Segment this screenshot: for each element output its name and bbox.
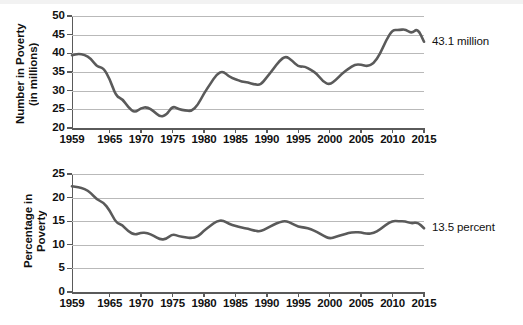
x-axis-tick-label: 1959 <box>55 133 89 145</box>
x-axis-tick-label: 1990 <box>250 297 284 309</box>
x-axis-tick-label: 1975 <box>156 297 190 309</box>
y-axis-label-top-line2: (in millions) <box>27 42 39 105</box>
y-axis-tick-label: 0 <box>45 286 65 297</box>
series-end-annotation: 13.5 percent <box>432 221 495 233</box>
x-axis-tick-label: 2010 <box>376 297 410 309</box>
x-axis-tick-label: 1965 <box>93 133 127 145</box>
x-axis-tick-label: 2015 <box>407 297 441 309</box>
y-axis-tick-label: 25 <box>45 168 65 179</box>
y-axis-tick-label: 30 <box>45 85 65 96</box>
x-axis-tick-label: 1970 <box>124 297 158 309</box>
y-axis-tick-label: 15 <box>45 215 65 226</box>
y-axis-label-bottom: Percentage in Poverty <box>22 172 38 290</box>
plot-area-top <box>72 16 424 128</box>
x-axis-tick-label: 1990 <box>250 133 284 145</box>
y-axis-tick-label: 40 <box>45 47 65 58</box>
y-axis-label-bottom-text: Percentage in Poverty <box>22 194 47 268</box>
chart-number-in-poverty: Number in Poverty (in millions) 20253035… <box>0 0 523 160</box>
series-line <box>72 16 424 128</box>
plot-area-bottom <box>72 174 424 292</box>
y-axis-tick-label: 25 <box>45 103 65 114</box>
y-axis-tick-label: 10 <box>45 239 65 250</box>
y-axis-tick-label: 20 <box>45 122 65 133</box>
y-axis-label-top: Number in Poverty (in millions) <box>14 18 44 130</box>
x-axis-tick-label: 2000 <box>313 133 347 145</box>
x-axis-tick-label: 1959 <box>55 297 89 309</box>
y-axis-label-top-line1: Number in Poverty <box>14 24 26 125</box>
x-axis-tick-label: 1980 <box>187 297 221 309</box>
x-axis-tick-label: 2005 <box>344 133 378 145</box>
x-axis-tick-label: 2015 <box>407 133 441 145</box>
y-axis-tick-label: 50 <box>45 10 65 21</box>
series-end-annotation: 43.1 million <box>432 35 489 47</box>
y-axis-tick-label: 5 <box>45 262 65 273</box>
chart-percentage-in-poverty: Percentage in Poverty 051015202519591965… <box>0 160 523 325</box>
x-axis-tick-label: 1980 <box>187 133 221 145</box>
x-axis-tick-label: 1995 <box>281 133 315 145</box>
x-axis-tick-label: 1970 <box>124 133 158 145</box>
y-axis-tick-label: 20 <box>45 192 65 203</box>
x-axis-tick-label: 1985 <box>218 297 252 309</box>
y-axis-tick-label: 35 <box>45 66 65 77</box>
x-axis-line <box>72 292 425 294</box>
x-axis-tick-label: 2000 <box>313 297 347 309</box>
x-axis-tick-label: 1985 <box>218 133 252 145</box>
x-axis-tick-label: 2005 <box>344 297 378 309</box>
x-axis-tick-label: 2010 <box>376 133 410 145</box>
y-axis-tick-label: 45 <box>45 29 65 40</box>
series-line <box>72 174 424 292</box>
x-axis-tick-label: 1975 <box>156 133 190 145</box>
x-axis-line <box>72 128 425 130</box>
x-axis-tick-label: 1965 <box>93 297 127 309</box>
x-axis-tick-label: 1995 <box>281 297 315 309</box>
